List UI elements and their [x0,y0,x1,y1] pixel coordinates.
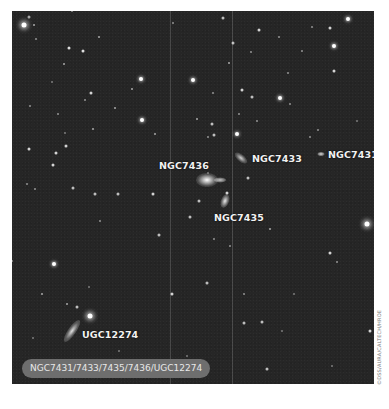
label-ngc7436: NGC7436 [159,160,209,171]
galaxy-ngc7431 [318,152,325,156]
label-ngc7433: NGC7433 [252,153,302,164]
plate-seam-line [170,11,171,384]
label-ngc7435: NGC7435 [214,212,264,223]
galaxy-ngc7436-companion [214,178,226,183]
galaxy-ngc7433 [233,150,249,165]
plate-seam-line [232,11,233,384]
star [226,192,229,195]
image-credit: ©DSS/AURA/CALTECH/HROE [376,310,382,385]
label-ngc7431: NGC7431 [328,149,374,160]
galaxy-ngc7435 [219,193,231,209]
caption-pill: NGC7431/7433/7435/7436/UGC12274 [22,359,210,378]
astronomical-image: NGC7436 NGC7433 NGC7431 NGC7435 UGC12274… [12,11,374,384]
galaxy-ugc12274 [61,318,82,344]
label-ugc12274: UGC12274 [82,329,138,340]
